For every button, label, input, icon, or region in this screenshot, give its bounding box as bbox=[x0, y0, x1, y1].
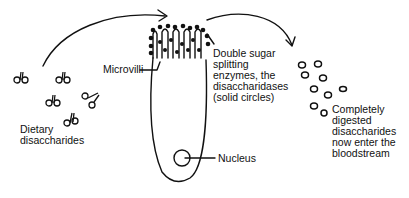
nucleus-label: Nucleus bbox=[218, 153, 256, 164]
dietary-disaccharides-label: Dietary disaccharides bbox=[20, 124, 84, 146]
digested-label: Completely digested disaccharides now en… bbox=[332, 104, 396, 159]
arrow-to-bloodstream bbox=[207, 14, 295, 46]
enzymes-label: Double sugar splitting enzymes, the disa… bbox=[213, 48, 288, 103]
arrow-to-cell bbox=[43, 10, 167, 66]
dietary-disaccharide-molecules bbox=[14, 72, 99, 126]
digestion-diagram bbox=[0, 0, 409, 198]
microvilli-label: Microvilli bbox=[103, 64, 143, 75]
